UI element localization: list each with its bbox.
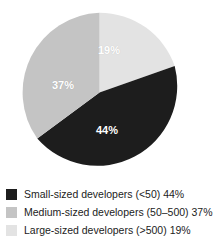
pie-slice-label-medium: 37% bbox=[52, 79, 74, 91]
chart-legend: Small-sized developers (<50) 44% Medium-… bbox=[6, 185, 218, 239]
legend-swatch-small bbox=[6, 189, 17, 200]
legend-label-small: Small-sized developers (<50) 44% bbox=[24, 188, 184, 200]
legend-swatch-medium bbox=[6, 207, 17, 218]
pie-chart-figure: 19% 37% 44% Small-sized developers (<50)… bbox=[0, 0, 218, 247]
legend-item-medium[interactable]: Medium-sized developers (50–500) 37% bbox=[6, 203, 218, 221]
legend-swatch-large bbox=[6, 225, 17, 236]
pie-slice-label-small: 44% bbox=[96, 124, 118, 136]
legend-item-small[interactable]: Small-sized developers (<50) 44% bbox=[6, 185, 218, 203]
legend-label-large: Large-sized developers (>500) 19% bbox=[24, 224, 191, 236]
legend-item-large[interactable]: Large-sized developers (>500) 19% bbox=[6, 221, 218, 239]
pie-svg bbox=[18, 11, 181, 174]
legend-label-medium: Medium-sized developers (50–500) 37% bbox=[24, 206, 213, 218]
pie-plot-area: 19% 37% 44% bbox=[0, 0, 218, 180]
pie-slice-label-large: 19% bbox=[98, 44, 120, 56]
